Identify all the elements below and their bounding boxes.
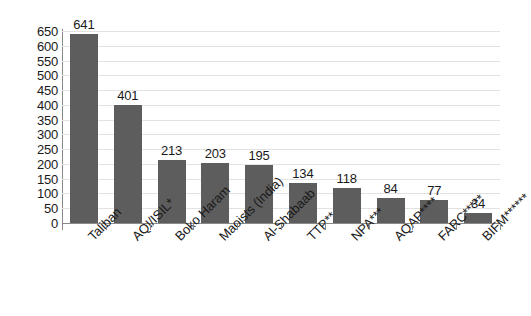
- gridline: [62, 31, 500, 32]
- y-axis-tick-label: 250: [14, 143, 58, 156]
- y-axis-tick-label: 450: [14, 84, 58, 97]
- y-axis-tick-label: 150: [14, 172, 58, 185]
- y-axis-tick-label: 600: [14, 39, 58, 52]
- y-axis-tick-label: 100: [14, 187, 58, 200]
- x-axis-tick-mark: [150, 224, 151, 230]
- x-axis-tick-mark: [456, 224, 457, 230]
- y-axis-tick-label: 400: [14, 98, 58, 111]
- x-axis-tick-mark: [237, 224, 238, 230]
- gridline: [62, 46, 500, 47]
- y-axis-tick-label: 650: [14, 25, 58, 38]
- bar-value-label: 77: [407, 184, 461, 197]
- bar-value-label: 195: [232, 149, 286, 162]
- y-axis-labels: 050100150200250300350400450500550600650: [8, 0, 58, 316]
- bar-value-label: 34: [451, 197, 505, 210]
- y-axis-tick-label: 0: [14, 217, 58, 230]
- bar[interactable]: [70, 34, 98, 223]
- x-axis-tick-mark: [281, 224, 282, 230]
- y-axis-tick-label: 50: [14, 202, 58, 215]
- gridline: [62, 75, 500, 76]
- x-axis-tick-mark: [500, 224, 501, 230]
- y-axis-tick-label: 200: [14, 157, 58, 170]
- bar-value-label: 641: [57, 18, 111, 31]
- x-axis-tick-mark: [325, 224, 326, 230]
- x-axis-tick-mark: [193, 224, 194, 230]
- x-axis-tick-mark: [106, 224, 107, 230]
- x-axis-tick-mark: [369, 224, 370, 230]
- bar-value-label: 401: [101, 89, 155, 102]
- bar[interactable]: [114, 105, 142, 223]
- gridline: [62, 61, 500, 62]
- y-axis-tick-label: 550: [14, 54, 58, 67]
- y-axis-tick-label: 500: [14, 69, 58, 82]
- x-axis-tick-mark: [62, 224, 63, 230]
- x-axis-tick-mark: [412, 224, 413, 230]
- y-axis-tick-label: 300: [14, 128, 58, 141]
- y-axis-tick-label: 350: [14, 113, 58, 126]
